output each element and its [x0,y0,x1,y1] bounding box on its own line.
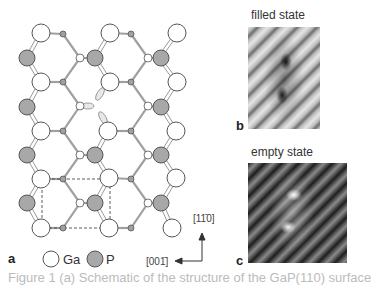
crystal-axes-icon [175,233,205,264]
empty-state-image [248,163,347,263]
axis-label-110: [11̄0] [193,213,215,224]
legend-p-icon [87,251,103,267]
filled-state-image [248,27,320,129]
filled-state-title: filled state [251,8,305,22]
lattice-diagram [0,0,230,279]
panel-c-label: c [236,253,243,268]
legend-ga-label: Ga [63,252,80,267]
figure-caption: Figure 1 (a) Schematic of the structure … [8,270,371,285]
panel-a-lattice [0,0,230,279]
legend-p-label: P [106,252,115,267]
panel-a-label: a [8,251,15,266]
axis-label-001: [001̄] [146,256,168,267]
panel-b-label: b [236,118,244,133]
legend-ga-icon [43,251,59,267]
empty-state-title: empty state [251,145,313,159]
